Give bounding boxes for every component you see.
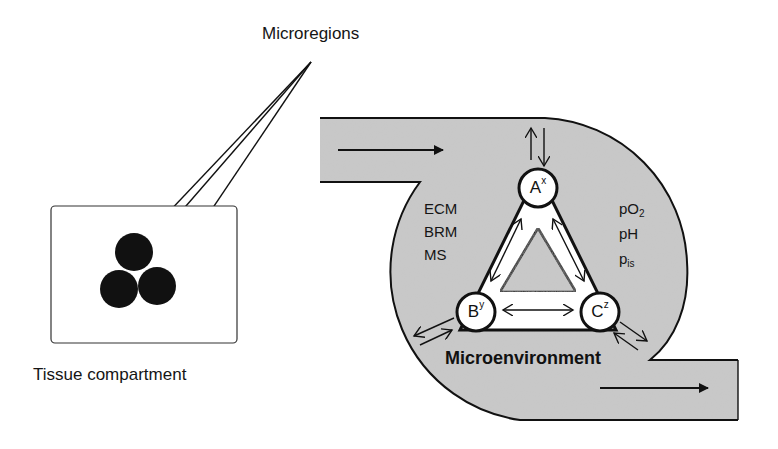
microenvironment-label: Microenvironment	[445, 348, 601, 369]
extracellular-factors-list: ECM BRM MS	[424, 197, 457, 266]
factor-brm: BRM	[424, 220, 457, 243]
microregions-label: Microregions	[262, 24, 359, 44]
factor-ms: MS	[424, 243, 457, 266]
factor-po2: pO2	[619, 197, 645, 222]
physicochemical-factors-list: pO2 pH pis	[619, 197, 645, 272]
node-b-label: By	[456, 301, 496, 322]
node-a-label: Ax	[518, 177, 558, 198]
factor-ecm: ECM	[424, 197, 457, 220]
factor-ph: pH	[619, 222, 645, 247]
tissue-compartment-label: Tissue compartment	[33, 365, 186, 385]
node-c-label: Cz	[580, 301, 620, 322]
factor-pis: pis	[619, 247, 645, 272]
